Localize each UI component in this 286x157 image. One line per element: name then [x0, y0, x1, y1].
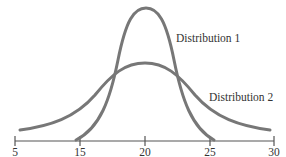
distribution-1-curve [76, 8, 214, 140]
tick-label-15: 15 [74, 146, 86, 157]
tick-label-20: 20 [139, 146, 151, 157]
distribution-2-label: Distribution 2 [209, 91, 273, 103]
distribution-chart: 5 15 20 25 30 Distribution 1 Distributio… [0, 0, 286, 157]
tick-label-30: 30 [268, 146, 280, 157]
x-axis-tick-labels: 5 15 20 25 30 [12, 146, 280, 157]
tick-label-5: 5 [12, 146, 18, 157]
distribution-1-label: Distribution 1 [176, 32, 240, 44]
tick-label-25: 25 [204, 146, 216, 157]
